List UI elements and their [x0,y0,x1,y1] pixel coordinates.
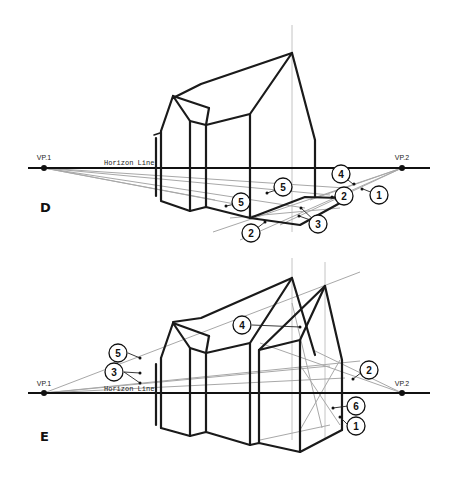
perspective-diagram: VP.1 VP.2 Horizon Line D [0,0,453,481]
panel-d: VP.1 VP.2 Horizon Line D [28,25,430,242]
svg-text:1: 1 [353,421,359,432]
svg-text:3: 3 [111,367,117,378]
svg-text:5: 5 [238,197,244,208]
callout-5: 5 [109,344,142,362]
vp1-guide-lines [44,168,345,208]
vp1-label: VP.1 [37,380,51,387]
svg-text:5: 5 [115,348,121,359]
callout-6: 6 [332,397,366,415]
svg-text:2: 2 [248,228,254,239]
callout-3: 3 [105,363,142,385]
panel-mark-d: D [40,200,51,215]
horizon-label: Horizon Line [104,159,154,167]
vp1-point [41,390,47,396]
svg-text:3: 3 [315,219,321,230]
vp2-point [399,165,405,171]
vp1-label: VP.1 [37,154,51,161]
svg-text:2: 2 [341,191,347,202]
vp2-label: VP.2 [395,154,409,161]
callout-1: 1 [361,186,389,204]
callout-5: 5 [266,178,293,196]
vp1-point [41,165,47,171]
house-e [156,278,342,452]
vp2-label: VP.2 [395,380,409,387]
svg-text:2: 2 [366,365,372,376]
callout-2: 2 [331,187,354,205]
svg-text:6: 6 [353,401,359,412]
svg-text:4: 4 [239,320,245,331]
callout-2b: 2 [242,221,267,243]
panel-mark-e: E [40,429,49,444]
vp2-point [399,390,405,396]
callout-5b: 5 [225,193,251,211]
svg-text:1: 1 [376,190,382,201]
panel-e: VP.1 VP.2 Horizon Line E [28,258,430,452]
svg-text:5: 5 [280,182,286,193]
vp2-guide-lines [260,303,402,440]
svg-text:4: 4 [338,169,344,180]
horizon-label: Horizon Line [104,385,154,393]
